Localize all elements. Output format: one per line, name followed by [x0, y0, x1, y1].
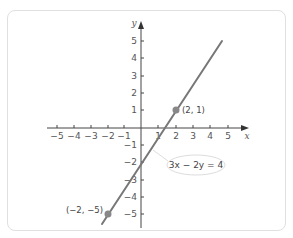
x-tick-label: −2 [101, 131, 114, 141]
x-tick-label: 3 [190, 131, 196, 141]
y-axis-arrow-icon [138, 21, 144, 29]
x-tick-label: −4 [67, 131, 81, 141]
equation-callout: 3x − 2y = 4 [153, 150, 225, 175]
y-tick-label: −2 [124, 157, 137, 167]
x-axis-label: x [244, 131, 249, 141]
point-label: (2, 1) [182, 105, 205, 115]
equation-label: 3x − 2y = 4 [169, 160, 224, 170]
x-tick-label: 5 [225, 131, 231, 141]
y-axis: 5 4 3 2 1 −1 −2 −3 −4 −5 y [124, 18, 144, 228]
y-tick-label: 1 [131, 105, 137, 115]
y-tick-label: −5 [124, 209, 137, 219]
y-tick-label: 3 [131, 71, 137, 81]
point-2-1 [173, 107, 180, 114]
x-tick-label: −5 [50, 131, 63, 141]
y-tick-label: 4 [131, 53, 137, 63]
coordinate-plane: −5 −4 −3 −2 −1 1 2 3 4 5 x 5 4 3 2 1 [0, 0, 293, 238]
y-tick-label: −4 [124, 192, 138, 202]
x-tick-label: 4 [207, 131, 213, 141]
x-axis: −5 −4 −3 −2 −1 1 2 3 4 5 x [47, 125, 250, 141]
y-tick-label: 5 [131, 36, 137, 46]
x-tick-label: 2 [173, 131, 179, 141]
point-neg2-neg5 [105, 211, 112, 218]
x-tick-label: −3 [84, 131, 97, 141]
y-axis-label: y [130, 18, 137, 28]
y-tick-label: 2 [131, 88, 137, 98]
y-tick-label: −1 [124, 140, 137, 150]
point-label: (−2, −5) [66, 205, 103, 215]
